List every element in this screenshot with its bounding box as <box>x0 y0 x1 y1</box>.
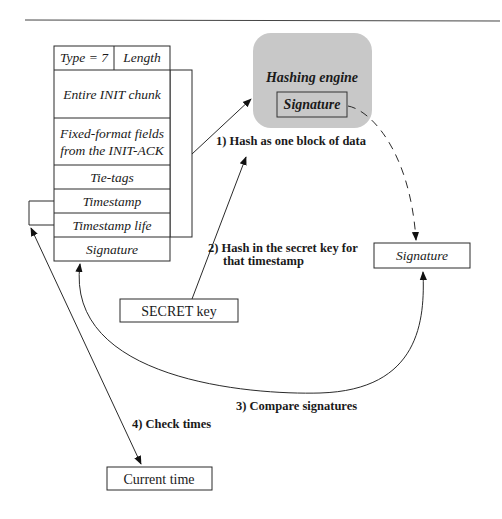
step4-check-arrow <box>31 228 141 464</box>
step3-compare-curve <box>79 264 423 393</box>
field-signature: Signature <box>86 242 138 257</box>
step2-arrow <box>192 157 246 299</box>
cookie-signature-diagram: Type = 7 Length Entire INIT chunk Fixed-… <box>0 0 502 519</box>
computed-signature-label: Signature <box>396 248 448 263</box>
step2-label-1: 2) Hash in the secret key for <box>208 241 358 255</box>
current-time-label: Current time <box>123 472 194 487</box>
field-tie-tags: Tie-tags <box>90 170 134 185</box>
step2-label-2: that timestamp <box>223 254 304 268</box>
state-cookie-table: Type = 7 Length Entire INIT chunk Fixed-… <box>54 46 170 261</box>
hashing-engine: Hashing engine Signature <box>253 33 372 128</box>
field-timestamp: Timestamp <box>83 194 142 209</box>
hashing-engine-title: Hashing engine <box>265 70 358 85</box>
step1-label: 1) Hash as one block of data <box>216 134 367 148</box>
field-type: Type = 7 <box>60 50 109 65</box>
field-fixed-format-1: Fixed-format fields <box>59 126 164 141</box>
timestamp-bracket <box>29 201 54 225</box>
field-timestamp-life: Timestamp life <box>72 218 151 233</box>
engine-signature-label: Signature <box>284 97 341 112</box>
field-fixed-format-2: from the INIT-ACK <box>60 143 164 158</box>
hashed-region-bracket <box>170 70 192 237</box>
secret-key-label: SECRET key <box>141 304 217 319</box>
top-rule <box>25 20 500 21</box>
step3-label: 3) Compare signatures <box>236 399 357 413</box>
field-length: Length <box>122 50 161 65</box>
step4-label: 4) Check times <box>132 417 211 431</box>
field-init-chunk: Entire INIT chunk <box>62 87 161 102</box>
